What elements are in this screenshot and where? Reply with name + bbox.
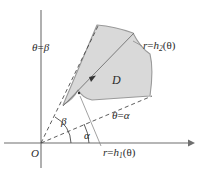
- label-angle-alpha: α: [84, 130, 90, 141]
- label-angle-beta: β: [61, 116, 66, 127]
- label-theta-equals-alpha: θ=α: [112, 110, 129, 121]
- label-theta-equals-beta: θ=β: [32, 42, 49, 53]
- label-r-equals-h1-theta: r=h1(θ): [103, 147, 135, 160]
- boundary-marks-group: [78, 92, 80, 94]
- label-region-D: D: [112, 74, 121, 86]
- polar-region-figure: θ=β θ=α r=h2(θ) r=h1(θ) D O β α: [0, 0, 206, 174]
- label-origin-O: O: [31, 148, 39, 159]
- region-D-group: [63, 25, 152, 106]
- theta-argument: (θ): [163, 39, 176, 51]
- label-r-equals-h2-theta: r=h2(θ): [143, 40, 175, 53]
- inner-notch-mark: [78, 92, 80, 94]
- x-axis-arrowhead: [188, 140, 195, 147]
- region-D-shape: [63, 25, 152, 105]
- beta-symbol: β: [44, 41, 49, 53]
- alpha-symbol: α: [124, 109, 130, 121]
- theta-argument: (θ): [123, 146, 136, 158]
